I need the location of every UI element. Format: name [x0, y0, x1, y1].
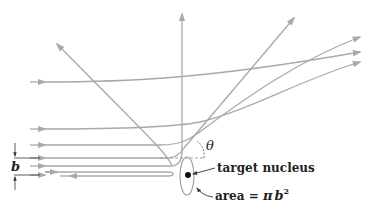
trajectory-large-angle: [30, 18, 294, 158]
area-exponent: 2: [284, 186, 290, 196]
trajectory-small-angle-1: [30, 62, 360, 129]
b-label: b: [11, 159, 20, 174]
trajectory-right-angle: [30, 14, 182, 166]
area-prefix: area =: [215, 189, 263, 203]
theta-arc: [197, 141, 204, 158]
trajectory-backscatter: [30, 172, 173, 176]
target-nucleus-dot: [185, 172, 191, 178]
area-b: b: [274, 188, 283, 203]
rutherford-scattering-diagram: θ b target nucleus area = πb2: [0, 0, 370, 212]
theta-label: θ: [206, 138, 214, 153]
target-pointer: [193, 168, 215, 174]
target-nucleus-label: target nucleus: [217, 161, 315, 175]
trajectory-backward: [57, 44, 172, 166]
area-pi: π: [262, 188, 273, 203]
area-pointer: [197, 188, 213, 197]
area-label: area = πb2: [215, 186, 289, 203]
